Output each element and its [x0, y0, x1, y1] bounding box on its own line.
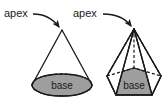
cone-apex-label: apex: [4, 7, 28, 19]
pyramid-apex-annotation: apex: [73, 7, 131, 26]
cone-shape: base: [32, 30, 92, 96]
cone-apex-annotation: apex: [4, 7, 59, 27]
cone-apex-arrow: [33, 14, 59, 27]
geometry-diagram: base base: [0, 0, 168, 107]
pyramid-base-label: base: [123, 80, 145, 91]
pyramid-apex-arrow: [103, 14, 131, 26]
pyramid-shape: base: [107, 29, 161, 95]
cone-base-label: base: [51, 80, 73, 91]
diagram-canvas: base base: [0, 0, 168, 107]
pyramid-apex-label: apex: [73, 7, 97, 19]
